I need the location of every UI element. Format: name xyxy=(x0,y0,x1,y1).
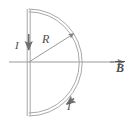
radius-line xyxy=(29,34,74,63)
current-label-left: I xyxy=(15,40,19,51)
magnetic-field-label: B xyxy=(116,63,124,74)
radius-label: R xyxy=(42,34,49,45)
physics-figure: R I I B xyxy=(0,0,134,127)
current-label-bottom: I xyxy=(67,101,71,112)
